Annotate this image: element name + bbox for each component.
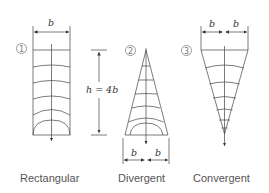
panel-1-number: 1 <box>16 43 27 54</box>
rectangular-shape <box>33 26 70 141</box>
convergent-shape <box>201 26 248 146</box>
div-width-label-right: b <box>155 147 161 158</box>
conv-width-label-left: b <box>209 18 215 29</box>
label-divergent: Divergent <box>118 172 165 184</box>
conv-width-label-right: b <box>233 18 239 29</box>
divergent-shape <box>123 48 169 164</box>
label-convergent: Convergent <box>193 172 250 184</box>
div-width-label-left: b <box>131 147 137 158</box>
label-rectangular: Rectangular <box>20 172 79 184</box>
height-label: h = 4b <box>86 84 118 95</box>
rect-width-label: b <box>48 17 54 28</box>
panel-2-number: 2 <box>125 45 136 56</box>
nozzle-diagram <box>0 0 269 193</box>
panel-3-number: 3 <box>181 45 192 56</box>
